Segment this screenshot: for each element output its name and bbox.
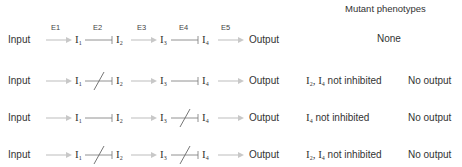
activation-arrow-icon xyxy=(131,37,157,43)
phenotype-text: None xyxy=(377,33,401,44)
intermediate-i4: I4 xyxy=(202,74,209,87)
activation-arrow-icon xyxy=(218,78,244,84)
intermediate-i3: I3 xyxy=(160,148,167,161)
phenotype-text: I2, I4 not inhibited xyxy=(306,74,382,87)
intermediate-i4: I4 xyxy=(202,33,209,46)
output-label: Output xyxy=(249,112,279,123)
intermediate-i4: I4 xyxy=(202,148,209,161)
enzyme-label-e3: E3 xyxy=(137,23,146,32)
intermediate-i1: I1 xyxy=(75,111,82,124)
output-label: Output xyxy=(249,75,279,86)
intermediate-i2: I2 xyxy=(116,33,123,46)
activation-arrow-icon xyxy=(46,152,72,158)
inhibition-icon xyxy=(85,74,113,88)
intermediate-i2: I2 xyxy=(116,111,123,124)
output-label: Output xyxy=(249,34,279,45)
inhibition-icon xyxy=(85,33,113,47)
input-label: Input xyxy=(8,149,30,160)
intermediate-i1: I1 xyxy=(75,148,82,161)
enzyme-label-e5: E5 xyxy=(221,23,230,32)
phenotype-output: No output xyxy=(408,75,451,86)
enzyme-label-e4: E4 xyxy=(179,23,188,32)
phenotype-output: No output xyxy=(408,149,451,160)
activation-arrow-icon xyxy=(131,115,157,121)
intermediate-i1: I1 xyxy=(75,33,82,46)
activation-arrow-icon xyxy=(218,37,244,43)
intermediate-i2: I2 xyxy=(116,148,123,161)
enzyme-label-e1: E1 xyxy=(51,23,60,32)
activation-arrow-icon xyxy=(46,37,72,43)
phenotype-text: I2, I4 not inhibited xyxy=(306,148,382,161)
inhibition-icon xyxy=(85,148,113,162)
intermediate-i2: I2 xyxy=(116,74,123,87)
inhibition-icon xyxy=(85,111,113,125)
phenotype-output: No output xyxy=(408,112,451,123)
phenotype-text: I4 not inhibited xyxy=(306,111,369,124)
intermediate-i4: I4 xyxy=(202,111,209,124)
inhibition-icon xyxy=(171,111,199,125)
activation-arrow-icon xyxy=(46,78,72,84)
input-label: Input xyxy=(8,34,30,45)
activation-arrow-icon xyxy=(218,115,244,121)
inhibition-icon xyxy=(171,33,199,47)
intermediate-i1: I1 xyxy=(75,74,82,87)
inhibition-icon xyxy=(171,148,199,162)
mutant-phenotypes-heading: Mutant phenotypes xyxy=(345,3,426,14)
activation-arrow-icon xyxy=(131,78,157,84)
activation-arrow-icon xyxy=(131,152,157,158)
intermediate-i3: I3 xyxy=(160,111,167,124)
intermediate-i3: I3 xyxy=(160,74,167,87)
activation-arrow-icon xyxy=(46,115,72,121)
input-label: Input xyxy=(8,75,30,86)
output-label: Output xyxy=(249,149,279,160)
intermediate-i3: I3 xyxy=(160,33,167,46)
enzyme-label-e2: E2 xyxy=(93,23,102,32)
input-label: Input xyxy=(8,112,30,123)
activation-arrow-icon xyxy=(218,152,244,158)
inhibition-icon xyxy=(171,74,199,88)
